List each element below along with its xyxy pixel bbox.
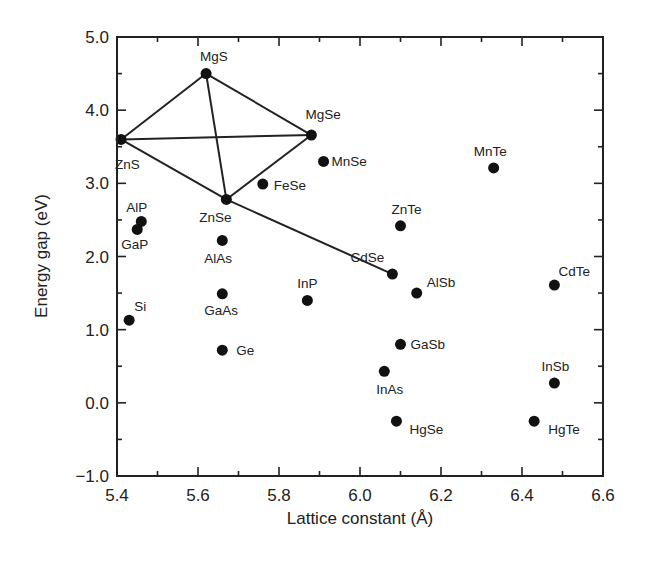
tie-line-zns-mgs bbox=[121, 74, 206, 140]
y-tick-label: 4.0 bbox=[85, 101, 109, 120]
label-mgs: MgS bbox=[200, 49, 228, 64]
x-tick-label: 6.4 bbox=[510, 486, 534, 505]
label-mnse: MnSe bbox=[332, 154, 367, 169]
point-ge bbox=[217, 345, 228, 356]
y-axis-label: Energy gap (eV) bbox=[32, 194, 51, 318]
connecting-lines bbox=[121, 74, 392, 274]
label-mnte: MnTe bbox=[474, 144, 507, 159]
point-cdte bbox=[549, 280, 560, 291]
point-mgs bbox=[201, 68, 212, 79]
point-gaas bbox=[217, 288, 228, 299]
label-gasb: GaSb bbox=[411, 337, 446, 352]
label-znse: ZnSe bbox=[199, 210, 231, 225]
chart-canvas: ZnSMgSMgSeMnSeFeSeZnSeAlPGaPAlAsSiGaAsGe… bbox=[0, 0, 648, 562]
label-hgse: HgSe bbox=[409, 422, 443, 437]
label-ge: Ge bbox=[236, 343, 254, 358]
point-labels: ZnSMgSMgSeMnSeFeSeZnSeAlPGaPAlAsSiGaAsGe… bbox=[115, 49, 590, 438]
y-tick-label: 2.0 bbox=[85, 248, 109, 267]
label-alas: AlAs bbox=[204, 251, 232, 266]
point-mnte bbox=[488, 162, 499, 173]
x-tick-label: 5.4 bbox=[105, 486, 129, 505]
point-mnse bbox=[318, 156, 329, 167]
bandgap-vs-lattice-chart: ZnSMgSMgSeMnSeFeSeZnSeAlPGaPAlAsSiGaAsGe… bbox=[0, 0, 648, 562]
x-axis-tick-labels: 5.45.65.86.06.26.46.6 bbox=[105, 486, 615, 505]
point-gap bbox=[132, 224, 143, 235]
point-inas bbox=[379, 366, 390, 377]
point-alas bbox=[217, 235, 228, 246]
label-si: Si bbox=[134, 299, 146, 314]
point-insb bbox=[549, 378, 560, 389]
x-tick-label: 5.6 bbox=[186, 486, 210, 505]
label-insb: InSb bbox=[541, 359, 569, 374]
y-tick-label: 1.0 bbox=[85, 321, 109, 340]
label-gaas: GaAs bbox=[204, 303, 238, 318]
label-fese: FeSe bbox=[274, 178, 306, 193]
y-tick-label: 0.0 bbox=[85, 394, 109, 413]
point-hgte bbox=[529, 416, 540, 427]
label-inas: InAs bbox=[376, 382, 403, 397]
y-tick-label: 3.0 bbox=[85, 174, 109, 193]
label-mgse: MgSe bbox=[305, 107, 340, 122]
x-tick-label: 6.2 bbox=[429, 486, 453, 505]
point-si bbox=[124, 315, 135, 326]
label-hgte: HgTe bbox=[548, 422, 580, 437]
x-tick-label: 6.6 bbox=[591, 486, 615, 505]
tie-line-mgs-mgse bbox=[206, 74, 311, 135]
point-inp bbox=[302, 295, 313, 306]
point-hgse bbox=[391, 416, 402, 427]
x-tick-label: 5.8 bbox=[267, 486, 291, 505]
label-alp: AlP bbox=[126, 200, 147, 215]
label-inp: InP bbox=[297, 276, 317, 291]
y-tick-label: 5.0 bbox=[85, 28, 109, 47]
label-gap: GaP bbox=[121, 237, 148, 252]
point-znse bbox=[221, 194, 232, 205]
label-alsb: AlSb bbox=[427, 275, 456, 290]
point-gasb bbox=[395, 339, 406, 350]
y-axis-tick-labels: −1.00.01.02.03.04.05.0 bbox=[75, 28, 109, 486]
x-tick-label: 6.0 bbox=[348, 486, 372, 505]
y-tick-label: −1.0 bbox=[75, 467, 109, 486]
point-fese bbox=[257, 179, 268, 190]
x-axis-label: Lattice constant (Å) bbox=[287, 509, 433, 528]
point-cdse bbox=[387, 269, 398, 280]
label-zns: ZnS bbox=[115, 157, 140, 172]
point-mgse bbox=[306, 130, 317, 141]
label-cdse: CdSe bbox=[350, 250, 384, 265]
label-cdte: CdTe bbox=[558, 264, 590, 279]
label-znte: ZnTe bbox=[392, 202, 422, 217]
point-alsb bbox=[411, 288, 422, 299]
point-znte bbox=[395, 220, 406, 231]
